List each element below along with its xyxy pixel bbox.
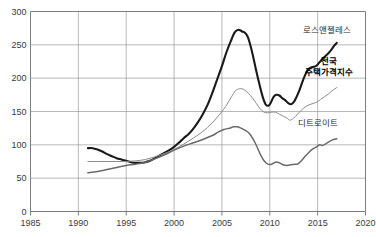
series-label-2: 전국주택가격지수 <box>305 56 353 77</box>
x-tick-label: 2010 <box>260 218 280 228</box>
data-series <box>88 30 337 173</box>
y-tick-label: 150 <box>11 107 26 117</box>
x-tick-label: 1990 <box>68 218 88 228</box>
x-tick-label: 1985 <box>20 218 40 228</box>
y-tick-label: 0 <box>21 207 26 217</box>
x-tick-label: 2005 <box>212 218 232 228</box>
housing-price-index-chart: 050100150200250300 198519901995200020052… <box>0 0 376 237</box>
x-tick-label: 1995 <box>116 218 136 228</box>
chart-svg: 050100150200250300 198519901995200020052… <box>0 0 376 237</box>
tick-marks <box>31 212 366 216</box>
grid-lines <box>31 12 366 212</box>
series-line-1 <box>88 30 337 163</box>
x-axis-tick-labels: 19851990199520002005201020152020 <box>20 218 375 228</box>
y-tick-label: 300 <box>11 7 26 17</box>
y-tick-label: 50 <box>16 173 26 183</box>
x-tick-label: 2015 <box>308 218 328 228</box>
series-label-line: 디트로이트 <box>298 118 338 128</box>
y-tick-label: 200 <box>11 73 26 83</box>
y-axis-tick-labels: 050100150200250300 <box>11 7 26 217</box>
y-tick-label: 100 <box>11 140 26 150</box>
series-line-3 <box>88 127 337 173</box>
series-annotations: 로스앤젤레스전국주택가격지수디트로이트 <box>298 25 353 128</box>
series-label-line: 전국 <box>321 56 337 66</box>
series-label-1: 로스앤젤레스 <box>303 25 351 35</box>
y-tick-label: 250 <box>11 40 26 50</box>
series-label-3: 디트로이트 <box>298 118 338 128</box>
x-tick-label: 2020 <box>355 218 375 228</box>
series-label-line: 주택가격지수 <box>305 67 353 77</box>
series-label-line: 로스앤젤레스 <box>303 25 351 35</box>
x-tick-label: 2000 <box>164 218 184 228</box>
